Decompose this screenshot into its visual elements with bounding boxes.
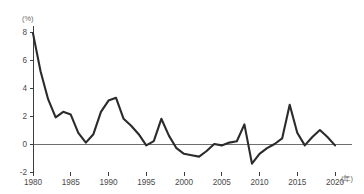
x-tick-label: 2005: [213, 178, 232, 187]
x-tick-label: 1980: [24, 178, 43, 187]
y-tick-label: 0: [22, 140, 27, 149]
y-tick-label: 8: [22, 28, 27, 37]
y-tick-label: -2: [20, 168, 28, 177]
x-tick-label: 1990: [99, 178, 118, 187]
x-tick-label: 2000: [175, 178, 194, 187]
y-tick-label: 4: [22, 84, 27, 93]
y-tick-label: 2: [22, 112, 27, 121]
y-tick-label: 6: [22, 56, 27, 65]
y-axis-unit-label: (%): [22, 14, 34, 23]
x-tick-label: 2015: [288, 178, 307, 187]
line-chart: 86420-2 19801985199019952000200520102015…: [0, 0, 364, 194]
x-axis-suffix-label: (年): [341, 174, 353, 183]
x-axis-tick-labels: 198019851990199520002005201020152020: [24, 178, 345, 187]
plot-background: [0, 0, 364, 194]
x-tick-label: 1995: [137, 178, 156, 187]
x-tick-label: 2010: [250, 178, 269, 187]
chart-container: 86420-2 19801985199019952000200520102015…: [0, 0, 364, 194]
x-tick-label: 1985: [62, 178, 81, 187]
